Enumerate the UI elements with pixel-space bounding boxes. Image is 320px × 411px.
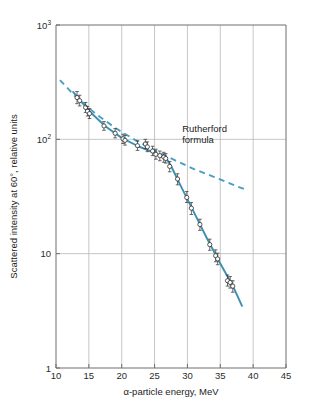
x-tick-label: 45 [281,370,292,381]
x-tick-label: 40 [248,370,259,381]
rutherford-annotation-line2: formula [182,134,214,145]
figure-container: 1015202530354045110102103 Rutherford for… [0,0,320,411]
x-tick-label: 10 [51,370,62,381]
x-tick-label: 35 [215,370,226,381]
x-tick-label: 20 [116,370,127,381]
rutherford-annotation-line1: Rutherford [182,123,227,134]
y-axis-label: Scattered intensity at 60°, relative uni… [8,114,19,279]
scatter-plot: 1015202530354045110102103 Rutherford for… [0,0,320,411]
plot-background [0,0,320,411]
x-tick-label: 15 [84,370,95,381]
y-tick-label: 1 [46,363,51,374]
x-axis-label: α-particle energy, MeV [123,386,219,397]
x-tick-label: 30 [182,370,193,381]
y-tick-label: 10 [40,248,51,259]
x-tick-label: 25 [149,370,160,381]
